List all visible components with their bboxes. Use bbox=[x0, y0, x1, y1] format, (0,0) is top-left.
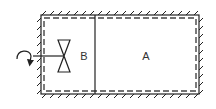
right-wall-hatching bbox=[199, 18, 203, 94]
container-diagram: B A bbox=[0, 0, 216, 109]
compartment-b-label: B bbox=[80, 50, 87, 62]
dashed-inner-boundary bbox=[44, 18, 196, 91]
rotation-arrow-icon bbox=[17, 51, 31, 63]
compartment-a-label: A bbox=[142, 50, 150, 62]
diagram-canvas: B A bbox=[0, 0, 216, 109]
